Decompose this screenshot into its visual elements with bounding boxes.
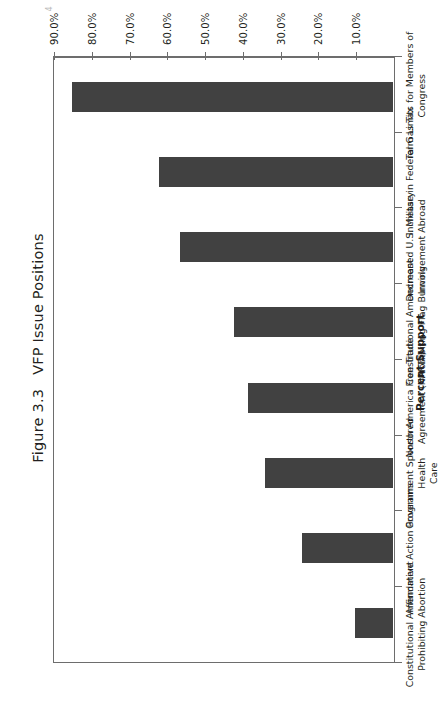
page: 4 Figure 3.3VFP Issue Positions 10.0%20.…: [0, 0, 447, 725]
figure-canvas: Figure 3.3VFP Issue Positions 10.0%20.0%…: [0, 0, 447, 725]
category-axis-tick: [395, 586, 402, 587]
bar[interactable]: [180, 232, 393, 262]
value-axis-tick: [356, 52, 357, 60]
value-axis-tick: [205, 52, 206, 60]
figure-title-text: VFP Issue Positions: [30, 233, 46, 375]
category-label: Term Limits for Members ofCongress: [404, 30, 428, 162]
value-axis-tick-label: 90.0%: [49, 13, 60, 45]
value-axis-tick-label: 20.0%: [313, 13, 324, 45]
category-axis-tick: [395, 283, 402, 284]
bar-series: [55, 59, 393, 661]
bar-slot: [55, 511, 393, 586]
bar[interactable]: [72, 82, 393, 112]
value-axis-tick-label: 50.0%: [200, 13, 211, 45]
category-axis-tick: [395, 207, 402, 208]
category-labels: Constitutional AmendmentProhibiting Abor…: [404, 58, 444, 662]
category-axis-tick: [395, 56, 402, 57]
bar-slot: [55, 435, 393, 510]
value-axis-tick: [318, 52, 319, 60]
bar[interactable]: [248, 383, 393, 413]
bar[interactable]: [159, 157, 393, 187]
value-axis-tick: [167, 52, 168, 60]
category-axis-tick: [395, 359, 402, 360]
value-axis-tick: [281, 52, 282, 60]
bar[interactable]: [355, 608, 393, 638]
category-axis: [395, 57, 396, 663]
category-axis-tick: [395, 510, 402, 511]
bar-slot: [55, 360, 393, 435]
category-label-slot: Term Limits for Members ofCongress: [404, 58, 444, 134]
value-axis-tick-label: 80.0%: [86, 13, 97, 45]
value-axis-tick: [243, 52, 244, 60]
bar-slot: [55, 285, 393, 360]
bar-slot: [55, 134, 393, 209]
value-axis-tick-label: 30.0%: [275, 13, 286, 45]
bar[interactable]: [302, 533, 393, 563]
category-axis-tick: [395, 132, 402, 133]
plot-area: [53, 57, 395, 663]
value-axis-tick: [130, 52, 131, 60]
value-axis-tick-label: 70.0%: [124, 13, 135, 45]
bar-slot: [55, 59, 393, 134]
bar-slot: [55, 586, 393, 661]
bar-slot: [55, 210, 393, 285]
value-axis-tick: [54, 52, 55, 60]
value-axis-tick: [92, 52, 93, 60]
bar[interactable]: [234, 307, 393, 337]
value-axis-tick-label: 10.0%: [351, 13, 362, 45]
bar[interactable]: [265, 458, 393, 488]
value-axis: 10.0%20.0%30.0%40.0%50.0%60.0%70.0%80.0%…: [53, 56, 395, 57]
value-axis-tick-label: 60.0%: [162, 13, 173, 45]
category-axis-tick: [395, 662, 402, 663]
figure-number: Figure 3.3: [30, 389, 46, 463]
value-axis-tick-label: 40.0%: [237, 13, 248, 45]
category-axis-tick: [395, 435, 402, 436]
